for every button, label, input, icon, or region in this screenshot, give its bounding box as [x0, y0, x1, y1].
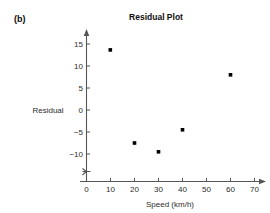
y-axis-arrow-icon — [84, 29, 90, 36]
x-axis-ticks: 0 10 20 30 40 50 60 70 — [84, 178, 259, 194]
y-axis — [84, 29, 90, 182]
data-point — [109, 48, 113, 52]
y-tick-label: −10 — [69, 150, 83, 159]
x-axis-arrow-icon — [259, 179, 266, 185]
x-tick-label: 50 — [202, 185, 211, 194]
x-tick-label: 60 — [226, 185, 235, 194]
data-series — [109, 48, 233, 154]
x-tick-label: 30 — [154, 185, 163, 194]
y-tick-label: 10 — [74, 62, 83, 71]
x-tick-label: 0 — [84, 185, 89, 194]
y-tick-label: −5 — [74, 128, 84, 137]
residual-plot-figure: (b) Residual Plot 15 10 5 0 — [0, 0, 270, 213]
y-axis-title: Residual — [32, 106, 63, 115]
x-axis-title: Speed (km/h) — [146, 200, 194, 209]
y-tick-label: 5 — [79, 84, 84, 93]
y-tick-label: 15 — [74, 40, 83, 49]
data-point — [157, 150, 161, 154]
x-axis — [80, 179, 266, 185]
y-tick-label: 0 — [79, 106, 84, 115]
x-tick-label: 10 — [106, 185, 115, 194]
data-point — [181, 128, 185, 132]
data-point — [229, 73, 233, 77]
x-tick-label: 70 — [250, 185, 259, 194]
scatter-plot-canvas: 15 10 5 0 −5 −10 0 10 20 30 40 — [0, 0, 270, 213]
x-tick-label: 40 — [178, 185, 187, 194]
data-point — [133, 141, 137, 145]
x-tick-label: 20 — [130, 185, 139, 194]
